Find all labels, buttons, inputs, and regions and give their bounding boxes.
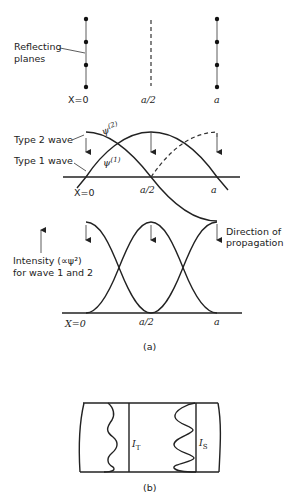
intensity-psi2-curve bbox=[86, 222, 217, 313]
it-label: IT bbox=[131, 438, 141, 452]
left-wavy-edge bbox=[79, 403, 84, 472]
psi1-label: ψ(1) bbox=[103, 156, 121, 168]
wave-half-a-label: a/2 bbox=[140, 184, 155, 195]
wave-x0-label: X=0 bbox=[74, 187, 95, 198]
direction-label-1: Direction of bbox=[226, 226, 282, 237]
psi2-label: ψ(2) bbox=[100, 120, 121, 137]
int-a-label: a bbox=[214, 316, 220, 327]
half-a-label: a/2 bbox=[141, 94, 156, 105]
reflecting-label-1: Reflecting bbox=[14, 41, 62, 52]
leader-line bbox=[60, 48, 85, 53]
right-wavy-edge bbox=[218, 403, 220, 472]
direction-label-2: propagation bbox=[226, 237, 283, 248]
reflecting-planes: Reflecting planes X=0 a/2 a bbox=[14, 17, 220, 105]
panel-b: IT IS (b) bbox=[79, 403, 220, 493]
psi1-curve bbox=[77, 132, 228, 190]
intensity-label-2: for wave 1 and 2 bbox=[13, 267, 93, 278]
wave-functions: Type 2 wave Type 1 wave ψ(2) ψ(1) X=0 a/… bbox=[13, 120, 283, 248]
int-half-a-label: a/2 bbox=[139, 316, 154, 327]
a-label: a bbox=[214, 94, 220, 105]
psi-dashed-continuation bbox=[151, 132, 217, 177]
is-label: IS bbox=[198, 437, 208, 451]
caption-b: (b) bbox=[143, 482, 156, 493]
is-wave bbox=[174, 403, 196, 472]
diffraction-diagram: Reflecting planes X=0 a/2 a Type 2 wave … bbox=[0, 0, 295, 495]
reflecting-label-2: planes bbox=[14, 53, 45, 64]
caption-a: (a) bbox=[143, 341, 156, 352]
int-x0-label: X=0 bbox=[64, 318, 86, 329]
wave-a-label: a bbox=[211, 184, 217, 195]
intensity-label-1: Intensity (∝ψ²) bbox=[13, 255, 82, 266]
type2-leader bbox=[72, 135, 84, 140]
type2-label: Type 2 wave bbox=[13, 134, 73, 145]
type1-label: Type 1 wave bbox=[13, 155, 73, 166]
type1-leader bbox=[74, 163, 86, 171]
intensity-psi1-curve bbox=[86, 222, 217, 313]
it-wave bbox=[104, 403, 117, 472]
x0-label: X=0 bbox=[68, 94, 89, 105]
intensity-plot: Intensity (∝ψ²) for wave 1 and 2 X=0 a/2… bbox=[13, 222, 242, 352]
